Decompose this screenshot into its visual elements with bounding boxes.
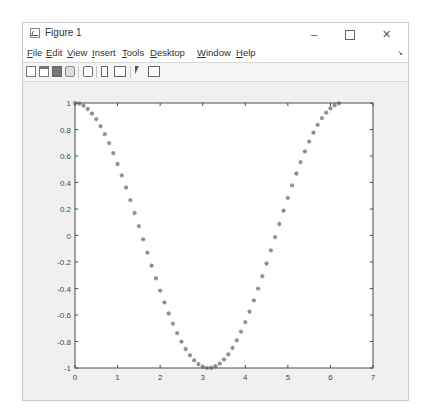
data-point-marker (154, 276, 158, 280)
data-point-marker (260, 274, 264, 278)
data-point-marker (128, 198, 132, 202)
data-point-marker (141, 237, 145, 241)
data-point-marker (226, 352, 230, 356)
y-tick-label: -0.6 (57, 311, 71, 320)
data-point-marker (277, 222, 281, 226)
x-tick-label: 2 (158, 373, 163, 382)
data-point-marker (294, 171, 298, 175)
data-point-marker (315, 123, 319, 127)
y-tick-labels: 10.80.60.40.20-0.2-0.4-0.6-0.8-1 (57, 99, 71, 373)
data-point-marker (98, 124, 102, 128)
data-point-marker (324, 110, 328, 114)
data-point-marker (175, 331, 179, 335)
data-point-marker (188, 353, 192, 357)
data-point-marker (115, 162, 119, 166)
data-point-marker (332, 103, 336, 107)
data-point-marker (281, 209, 285, 213)
data-point-marker (137, 224, 141, 228)
data-point-marker (94, 117, 98, 121)
y-tick-label: 1 (67, 99, 72, 108)
data-point-marker (235, 338, 239, 342)
data-point-marker (192, 358, 196, 362)
data-point-marker (264, 261, 268, 265)
data-point-marker (328, 106, 332, 110)
data-point-marker (90, 111, 94, 115)
data-point-marker (179, 339, 183, 343)
data-point-marker (86, 107, 90, 111)
data-point-marker (256, 286, 260, 290)
data-point-marker (222, 357, 226, 361)
data-point-marker (303, 149, 307, 153)
y-tick-label: -0.8 (57, 338, 71, 347)
data-point-marker (158, 288, 162, 292)
y-tick-label: 0 (67, 232, 72, 241)
data-point-marker (149, 263, 153, 267)
figure-canvas: 01234567 10.80.60.40.20-0.2-0.4-0.6-0.8-… (23, 82, 408, 400)
data-point-marker (273, 235, 277, 239)
plot-axes[interactable]: 01234567 10.80.60.40.20-0.2-0.4-0.6-0.8-… (1, 1, 429, 420)
axes-background (75, 103, 373, 368)
data-point-marker (107, 141, 111, 145)
data-point-marker (218, 361, 222, 365)
figure-window: Figure 1 – ✕ File Edit View Insert Tools… (22, 22, 409, 401)
data-point-marker (247, 309, 251, 313)
data-point-marker (320, 116, 324, 120)
data-point-marker (103, 132, 107, 136)
data-point-marker (81, 103, 85, 107)
y-tick-label: -0.2 (57, 258, 71, 267)
data-point-marker (307, 139, 311, 143)
data-point-marker (132, 211, 136, 215)
y-tick-label: 0.4 (60, 179, 72, 188)
y-tick-label: 0.6 (60, 152, 72, 161)
x-tick-label: 4 (243, 373, 248, 382)
x-tick-label: 0 (73, 373, 78, 382)
x-tick-label: 1 (115, 373, 120, 382)
y-tick-label: 0.8 (60, 126, 72, 135)
x-tick-label: 3 (200, 373, 205, 382)
x-tick-label: 5 (286, 373, 291, 382)
data-point-marker (77, 101, 81, 105)
data-point-marker (252, 298, 256, 302)
data-point-marker (183, 347, 187, 351)
data-point-marker (162, 300, 166, 304)
data-point-marker (145, 250, 149, 254)
x-tick-label: 6 (328, 373, 333, 382)
x-tick-label: 7 (371, 373, 376, 382)
data-point-marker (290, 183, 294, 187)
y-tick-label: -0.4 (57, 285, 71, 294)
data-point-marker (298, 160, 302, 164)
data-point-marker (239, 329, 243, 333)
y-tick-label: 0.2 (60, 205, 72, 214)
data-point-marker (269, 248, 273, 252)
data-point-marker (171, 322, 175, 326)
data-point-marker (196, 362, 200, 366)
data-point-marker (286, 196, 290, 200)
data-point-marker (120, 173, 124, 177)
x-tick-labels: 01234567 (73, 373, 376, 382)
data-point-marker (111, 151, 115, 155)
data-point-marker (230, 346, 234, 350)
y-tick-label: -1 (64, 364, 72, 373)
data-point-marker (166, 311, 170, 315)
data-point-marker (311, 130, 315, 134)
data-point-marker (243, 320, 247, 324)
